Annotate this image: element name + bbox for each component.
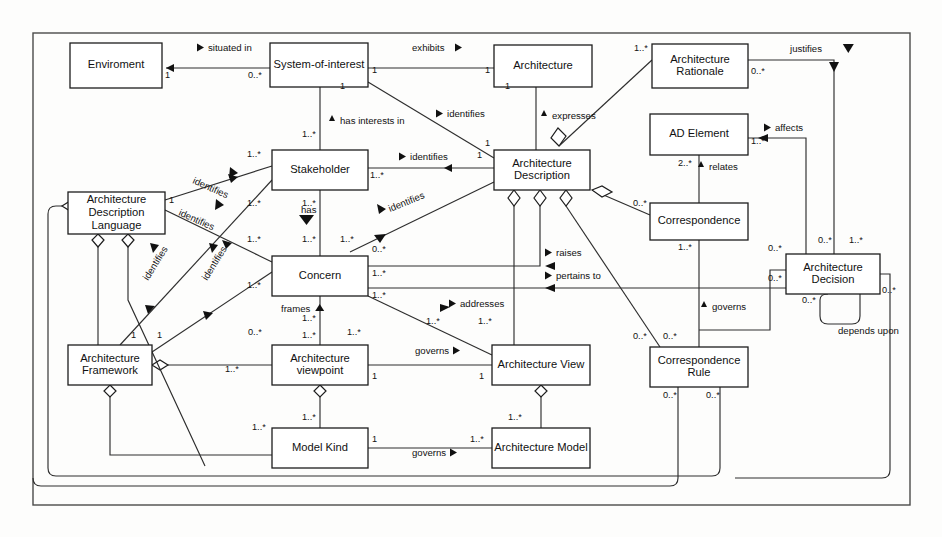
node-label: Stakeholder [290,163,350,175]
assoc-label-exhibits: exhibits [412,42,462,53]
class-node-soi[interactable]: System-of-interest [270,43,368,87]
diamond-viewpoint-modelkind [314,385,326,397]
node-label: Decision [812,273,855,285]
multiplicity-label: 1 [479,371,484,381]
arrow-marker-left-icon [449,300,456,308]
diamond-ad-rationale [551,128,566,146]
uml-class-diagram: EnviromentSystem-of-interestArchitecture… [0,0,942,537]
class-node-concern[interactable]: Concern [272,256,368,296]
diamond-ad-correspondence [592,186,612,197]
arrow-marker-up-icon [329,115,335,121]
association-labels: situated inexhibitsjustifiesidentifiesex… [140,42,898,458]
assoc-label-identifies-soi-ad: identifies [436,108,485,119]
multiplicity-label: 0..* [663,390,677,400]
class-node-environment[interactable]: Enviroment [70,43,162,88]
assoc-label-governs-vp-view: governs [415,345,460,356]
arrow-marker-right-icon [455,44,462,52]
multiplicity-label: 1..* [849,235,863,245]
multiplicity-label: 1..* [252,422,266,432]
arrow-marker-left-icon [545,272,552,280]
assoc-label-addresses: addresses [449,298,504,309]
multiplicity-label: 0..* [633,331,647,341]
class-node-arch-rationale[interactable]: ArchitectureRationale [652,44,748,88]
arrow-marker-up-icon [701,301,707,307]
assoc-label-text: raises [556,247,582,258]
assoc-label-affects: affects [764,122,803,133]
arrow-marker-rightdiag-icon [215,199,224,210]
multiplicity-label: 1..* [302,330,316,340]
arrowhead-identifies-sh-ad [444,164,452,172]
diamond-ad-corrrule [560,190,572,206]
arrowhead-identifies-ad-cn [374,234,386,243]
multiplicity-label: 0..* [372,244,386,254]
class-node-model-kind[interactable]: Model Kind [272,428,368,468]
node-label: Framework [82,364,138,376]
node-label: Architecture [670,53,730,65]
multiplicity-label: 2..* [678,158,692,168]
multiplicity-label: 0..* [882,285,896,295]
diagram-canvas: EnviromentSystem-of-interestArchitecture… [0,0,942,537]
node-label: Enviroment [88,58,145,70]
multiplicity-label: 1..* [225,364,239,374]
multiplicity-label: 1..* [302,313,316,323]
assoc-label-text: depends upon [838,325,899,336]
class-node-arch-framework[interactable]: ArchitectureFramework [68,345,152,385]
multiplicity-label: 1..* [302,129,316,139]
class-node-stakeholder[interactable]: Stakeholder [272,150,368,190]
class-node-corr-rule[interactable]: CorrespondenceRule [650,347,748,387]
node-label: Architecture [513,59,573,71]
assoc-label-text: identifies [447,108,485,119]
multiplicity-label: 1 [372,65,377,75]
assoc-label-text: governs [712,301,746,312]
assoc-label-text: exhibits [412,42,445,53]
node-label: Architecture [80,352,140,364]
multiplicity-label: 1..* [470,434,484,444]
multiplicity-label: 1..* [302,412,316,422]
assoc-label-text: relates [709,161,738,172]
arrow-marker-left-icon [399,153,406,161]
multiplicity-label: 1 [477,150,482,160]
assoc-label-relates: relates [698,161,738,172]
class-node-ad-element[interactable]: AD Element [650,114,748,155]
node-label: AD Element [669,127,730,139]
arrow-marker-left-icon [197,44,204,52]
node-label: Architecture [290,352,350,364]
class-node-arch-viewpoint[interactable]: Architectureviewpoint [272,345,368,385]
multiplicity-label: 1 [169,195,174,205]
multiplicity-label: 1..* [347,327,361,337]
node-label: Language [92,219,142,231]
node-label: Correspondence [658,354,741,366]
node-label: Correspondence [658,214,741,226]
multiplicity-label: 0..* [802,295,816,305]
assoc-label-text: identifies [191,175,230,201]
assoc-label-text: pertains to [556,270,601,281]
node-boxes: EnviromentSystem-of-interestArchitecture… [68,43,880,468]
class-node-arch-description[interactable]: ArchitectureDescription [494,150,590,190]
node-label: System-of-interest [274,58,366,70]
assoc-label-text: identifies [387,189,426,213]
multiplicity-label: 1 [165,70,170,80]
class-node-adl[interactable]: ArchitectureDescriptionLanguage [68,192,165,234]
diamond-ad-view [508,190,520,206]
diamond-adl-af [92,234,104,247]
assoc-label-text: governs [412,447,446,458]
node-label: Rationale [676,65,723,77]
class-node-correspondence[interactable]: Correspondence [650,203,748,240]
arrow-marker-down-icon [843,44,854,53]
multiplicity-label: 1..* [340,234,354,244]
class-node-arch-decision[interactable]: ArchitectureDecision [786,254,880,294]
node-label: Description [89,206,145,218]
class-node-arch-view[interactable]: Architecture View [492,345,590,385]
assoc-label-pertains-to: pertains to [545,270,601,281]
arrow-marker-right-icon [450,449,457,457]
multiplicity-label: 1..* [508,412,522,422]
multiplicity-label: 1 [372,371,377,381]
class-node-arch-model[interactable]: Architecture Model [492,428,590,468]
multiplicity-label: 1..* [426,316,440,326]
multiplicity-label: 1 [485,65,490,75]
multiplicity-label: 1 [131,330,136,340]
assoc-label-identifies-af-2: identifies [199,243,229,282]
arrowhead-justifies [829,62,839,72]
multiplicity-label: 1..* [372,268,386,278]
arrow-marker-left-icon [545,249,552,257]
